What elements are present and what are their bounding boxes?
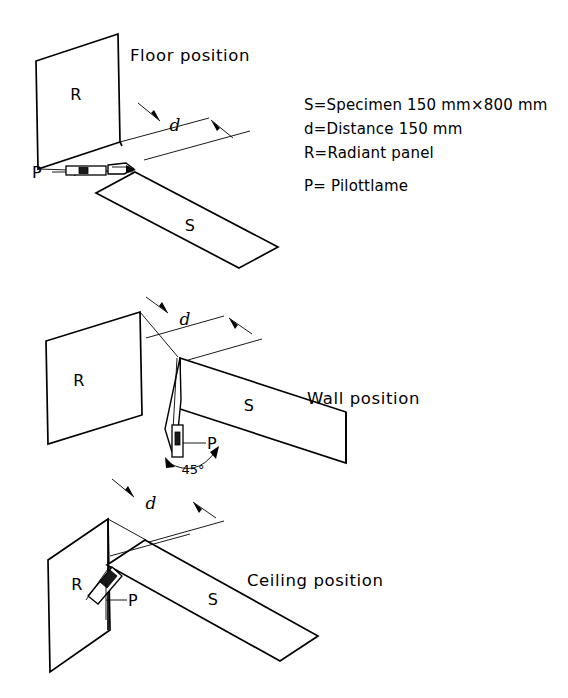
diagram-canvas: P R S d Floor position S=Specimen 150 mm… <box>0 0 568 698</box>
wall-specimen-panel <box>180 358 346 463</box>
ceiling-specimen-label: S <box>208 590 219 609</box>
floor-pilot-label: P <box>32 163 42 182</box>
floor-specimen-label: S <box>185 216 196 235</box>
wall-lower-ref-edge <box>188 339 262 360</box>
wall-angle-arrow-left <box>165 457 175 468</box>
wall-pilot-label: P <box>207 434 217 453</box>
legend-line-pilot-flame: P= Pilottlame <box>304 177 408 195</box>
ceiling-dim-leader-right <box>193 502 216 518</box>
floor-panel-label: R <box>70 85 82 104</box>
ceiling-plane-guide <box>108 519 146 540</box>
legend-line-radiant-panel: R=Radiant panel <box>304 144 434 162</box>
legend-group: S=Specimen 150 mm×800 mm d=Distance 150 … <box>304 96 548 195</box>
ceiling-pilot-label: P <box>128 591 138 610</box>
floor-dim-arrow-right <box>211 120 220 131</box>
wall-distance-label: d <box>180 309 191 329</box>
wall-radiant-panel <box>46 312 142 444</box>
ceiling-dim-arrow-left <box>125 486 134 497</box>
ceiling-position-group: d P R S Ceiling position <box>48 479 384 672</box>
technical-diagram-figure: P R S d Floor position S=Specimen 150 mm… <box>0 0 568 698</box>
wall-angle-label: 45° <box>181 462 204 477</box>
wall-panel-label: R <box>73 371 85 390</box>
floor-dim-leader-left <box>138 103 160 121</box>
wall-position-group: R S P d 45° Wall position <box>46 297 420 477</box>
wall-dim-leader-left <box>146 297 168 313</box>
floor-upper-plane-edge <box>120 118 209 142</box>
floor-position-group: P R S d Floor position <box>32 34 278 268</box>
ceiling-distance-label: d <box>146 493 157 513</box>
wall-burner-collar <box>175 432 180 445</box>
floor-specimen-ref-edge <box>144 131 250 160</box>
ceiling-lower-ref-edge <box>149 521 224 542</box>
floor-distance-label: d <box>170 115 181 135</box>
floor-dim-arrow-left <box>151 110 160 121</box>
wall-dim-leader-right <box>229 318 252 334</box>
legend-line-distance: d=Distance 150 mm <box>304 120 462 138</box>
legend-line-specimen: S=Specimen 150 mm×800 mm <box>304 96 548 114</box>
floor-position-title: Floor position <box>130 46 250 65</box>
floor-dim-leader-right <box>211 120 233 138</box>
ceiling-position-title: Ceiling position <box>247 571 384 590</box>
floor-panel-edge <box>120 142 122 146</box>
wall-specimen-label: S <box>244 396 255 415</box>
wall-position-title: Wall position <box>307 389 420 408</box>
floor-burner-collar <box>79 168 88 174</box>
ceiling-panel-label: R <box>71 575 83 594</box>
